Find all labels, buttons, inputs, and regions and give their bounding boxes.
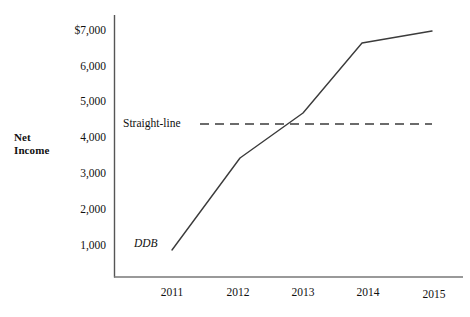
y-tick-label-2000: 2,000	[48, 203, 106, 215]
x-tick-label-2012: 2012	[208, 286, 268, 298]
y-tick-label-5000: 5,000	[48, 95, 106, 107]
series-ddb-line	[172, 31, 432, 250]
y-tick-label-7000: $7,000	[48, 24, 106, 36]
y-tick-label-1000: 1,000	[48, 239, 106, 251]
x-tick-label-2015: 2015	[404, 288, 464, 300]
x-tick-label-2014: 2014	[338, 286, 398, 298]
x-tick-label-2011: 2011	[142, 286, 202, 298]
y-tick-label-4000: 4,000	[48, 131, 106, 143]
series-label-ddb: DDB	[134, 237, 158, 249]
x-tick-label-2013: 2013	[273, 286, 333, 298]
y-tick-label-6000: 6,000	[48, 60, 106, 72]
net-income-depreciation-chart: Net Income $7,000 6,000 5,000 4,000 3,00…	[0, 0, 470, 317]
series-label-straight-line: Straight-line	[123, 117, 181, 129]
y-tick-label-3000: 3,000	[48, 167, 106, 179]
chart-plot-area	[0, 0, 470, 317]
